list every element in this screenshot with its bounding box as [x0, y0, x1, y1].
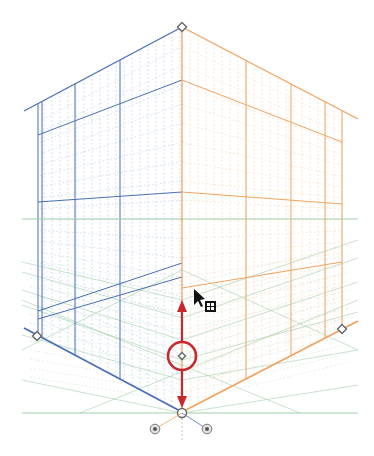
perspective-grid-svg[interactable] — [0, 0, 374, 456]
perspective-grid-canvas[interactable] — [0, 0, 374, 456]
left-plane-ground-widget-dot — [153, 427, 157, 431]
ground-plane-grid — [22, 240, 358, 413]
left-plane-horizontal — [38, 80, 182, 135]
left-minor-horizontal — [40, 85, 182, 143]
left-minor-horizontal — [40, 230, 182, 238]
left-minor-horizontal — [40, 46, 182, 121]
ground-plane-line — [22, 335, 182, 380]
right-grid-extent-handle[interactable] — [338, 325, 347, 334]
arrow-cursor-icon — [194, 289, 205, 307]
left-minor-horizontal — [40, 181, 182, 198]
left-minor-horizontal — [40, 66, 182, 132]
left-minor-horizontal — [40, 285, 182, 335]
grid-cell-size-handle[interactable] — [179, 353, 186, 360]
arrow-down-icon[interactable] — [177, 396, 187, 408]
left-plane-bottom-edge[interactable] — [24, 328, 182, 412]
ground-plane-line — [80, 300, 358, 413]
ground-plane-line — [22, 380, 182, 413]
ground-minor-line — [182, 344, 350, 384]
grid-handles[interactable] — [33, 23, 347, 441]
vertical-grid-extent-handle[interactable] — [178, 23, 187, 32]
ground-minor-line — [182, 353, 350, 393]
left-minor-horizontal — [40, 123, 182, 164]
left-minor-horizontal — [40, 200, 182, 208]
left-minor-horizontal — [40, 104, 182, 154]
left-minor-horizontal — [40, 318, 182, 393]
left-minor-horizontal — [40, 143, 182, 176]
left-plane-top-edge[interactable] — [24, 27, 182, 111]
left-minor-horizontal — [40, 307, 182, 373]
ground-plane-line — [22, 300, 300, 413]
left-minor-horizontal — [40, 241, 182, 258]
left-minor-horizontal — [40, 162, 182, 187]
left-plane-horizontal — [38, 192, 182, 202]
left-minor-horizontal — [40, 252, 182, 277]
arrow-up-icon[interactable] — [177, 300, 187, 312]
left-plane-horizontal — [38, 277, 182, 319]
left-minor-horizontal — [40, 263, 182, 296]
ground-plane-line — [22, 272, 182, 318]
left-plane-horizontal — [38, 263, 182, 311]
right-plane-ground-widget-dot — [205, 427, 209, 431]
grid-move-badge-icon — [205, 301, 216, 312]
left-minor-horizontal — [40, 296, 182, 354]
